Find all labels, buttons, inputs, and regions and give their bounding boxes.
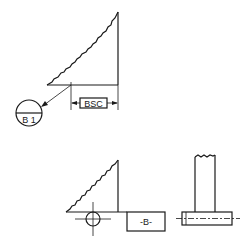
bottom-triangle-hypotenuse: [66, 160, 118, 212]
top-figure: BSC B 1: [16, 12, 118, 126]
top-triangle-hypotenuse: [47, 12, 118, 85]
datum-target-leader: [44, 85, 71, 105]
bottom-figure: -B-: [66, 155, 240, 236]
datum-target-label: B 1: [22, 115, 36, 125]
leader-arrow-icon: [41, 101, 48, 107]
arrow-left-icon: [71, 101, 77, 105]
datum-feature-label: -B-: [140, 217, 152, 227]
drawing-canvas: BSC B 1 -B-: [0, 0, 251, 243]
arrow-right-icon: [112, 101, 118, 105]
basic-dimension-label: BSC: [84, 99, 103, 109]
post-break-line: [195, 155, 215, 157]
